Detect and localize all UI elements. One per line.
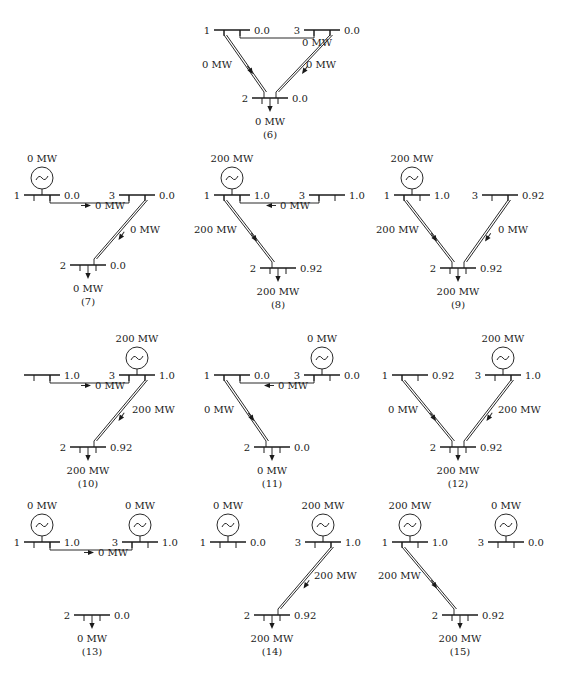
diagram-8: 0 MW200 MW11.0200 MW31.020.92200 MW(8) <box>194 153 365 310</box>
diagram-caption: (6) <box>263 129 277 140</box>
diagram-caption: (8) <box>271 299 285 310</box>
bus-number: 1 <box>200 537 206 548</box>
load: 200 MW <box>257 268 301 297</box>
generator: 200 MW <box>389 500 433 542</box>
line-flow-label: 0 MW <box>98 547 129 558</box>
bus-2: 20.92 <box>430 442 503 453</box>
bus-3: 30.92 <box>472 190 545 201</box>
load-value: 200 MW <box>437 286 481 297</box>
load-value: 200 MW <box>437 465 481 476</box>
generator-output: 0 MW <box>125 500 156 511</box>
bus-2: 20.92 <box>430 263 503 274</box>
bus-3: 31.0200 MW <box>475 333 541 381</box>
load: 200 MW <box>439 615 483 644</box>
bus-number: 2 <box>430 263 436 274</box>
load-arrow-icon <box>269 455 274 461</box>
generator: 0 MW <box>27 153 58 195</box>
generator: 200 MW <box>482 333 526 375</box>
line-3-2: 0 MW <box>464 195 529 268</box>
bus-voltage: 1.0 <box>349 190 365 201</box>
diagram-9: 200 MW0 MW11.0200 MW30.9220.92200 MW(9) <box>376 153 544 310</box>
bus-voltage: 0.92 <box>480 442 502 453</box>
bus-number: 3 <box>112 537 118 548</box>
bus-voltage: 0.0 <box>294 442 310 453</box>
diagram-15: 200 MW11.0200 MW30.00 MW20.92200 MW(15) <box>378 500 544 657</box>
bus-number: 1 <box>204 370 210 381</box>
bus-1: 11.0200 MW <box>204 153 270 201</box>
bus-number: 1 <box>384 190 390 201</box>
bus-voltage: 0.0 <box>292 93 308 104</box>
bus-number: 3 <box>472 190 478 201</box>
load: 200 MW <box>67 447 111 476</box>
bus-number: 3 <box>294 370 300 381</box>
bus-number: 2 <box>430 442 436 453</box>
line-3-2: 200 MW <box>278 542 358 615</box>
bus-number: 2 <box>60 442 66 453</box>
load: 0 MW <box>73 265 104 294</box>
arrow-left-icon <box>264 383 274 388</box>
diagram-caption: (13) <box>82 646 103 657</box>
line-3-2: 200 MW <box>464 375 542 447</box>
diagram-13: 0 MW11.00 MW31.00 MW20.00 MW(13) <box>14 500 178 657</box>
generator: 200 MW <box>391 153 435 195</box>
bus-number: 2 <box>244 442 250 453</box>
bus-voltage: 1.0 <box>159 370 175 381</box>
bus-voltage: 1.0 <box>254 190 270 201</box>
generator: 0 MW <box>307 333 338 375</box>
diagram-caption: (15) <box>450 646 471 657</box>
bus-2: 20.92 <box>250 263 323 274</box>
load-value: 0 MW <box>73 283 104 294</box>
bus-2: 20.92 <box>60 442 133 453</box>
diagram-12: 0 MW200 MW10.9231.0200 MW20.92200 MW(12) <box>382 333 542 489</box>
generator: 200 MW <box>116 333 160 375</box>
generator: 200 MW <box>211 153 255 195</box>
diagram-caption: (7) <box>81 296 95 307</box>
generator-output: 200 MW <box>116 333 160 344</box>
load-arrow-icon <box>455 276 460 282</box>
bus-number: 1 <box>14 190 20 201</box>
bus-voltage: 0.92 <box>294 610 316 621</box>
load-arrow-icon <box>89 623 94 629</box>
generator-output: 0 MW <box>213 500 244 511</box>
bus-voltage: 1.0 <box>434 190 450 201</box>
generator-output: 0 MW <box>27 153 58 164</box>
bus-number: 3 <box>109 190 115 201</box>
generator-output: 200 MW <box>302 500 346 511</box>
line-flow-label: 0 MW <box>202 59 233 70</box>
arrow-down-right-icon <box>429 232 439 243</box>
bus-number: 1 <box>204 25 210 36</box>
load-arrow-icon <box>85 273 90 279</box>
bus-voltage: 1.0 <box>525 370 541 381</box>
bus-number: 3 <box>478 537 484 548</box>
bus-3: 30.00 MW <box>294 333 360 381</box>
bus-number: 3 <box>295 537 301 548</box>
diagram-14: 200 MW10.00 MW31.0200 MW20.92200 MW(14) <box>200 500 361 657</box>
diagram-caption: (12) <box>448 478 469 489</box>
load-value: 200 MW <box>439 633 483 644</box>
line-1-2: 0 MW <box>204 375 269 447</box>
bus-2: 20.0 <box>242 93 308 104</box>
bus-1: 10.00 MW <box>200 500 266 548</box>
bus-voltage: 0.0 <box>528 537 544 548</box>
load-value: 0 MW <box>255 116 286 127</box>
power-flow-figure: 0 MW0 MW0 MW10.030.020.00 MW(6)0 MW0 MW1… <box>0 0 562 673</box>
bus-voltage: 0.92 <box>522 190 544 201</box>
line-flow-label: 200 MW <box>314 570 358 581</box>
line-flow-label: 0 MW <box>280 200 311 211</box>
bus-1: 10.92 <box>382 370 455 381</box>
bus-voltage: 0.0 <box>344 25 360 36</box>
line-1-2: 0 MW <box>388 375 455 447</box>
diagram-caption: (14) <box>262 646 283 657</box>
load-value: 0 MW <box>257 465 288 476</box>
generator: 0 MW <box>213 500 244 542</box>
bus-1: 11.0200 MW <box>384 153 450 201</box>
bus-2: 20.0 <box>244 442 310 453</box>
arrow-down-right-icon <box>249 232 259 243</box>
load-arrow-icon <box>85 455 90 461</box>
diagram-grid: 0 MW0 MW0 MW10.030.020.00 MW(6)0 MW0 MW1… <box>14 25 545 657</box>
generator-output: 200 MW <box>391 153 435 164</box>
arrow-left-icon <box>266 203 276 208</box>
bus-2: 20.0 <box>64 610 130 621</box>
line-flow-label: 0 MW <box>306 59 337 70</box>
bus-voltage: 0.0 <box>344 370 360 381</box>
